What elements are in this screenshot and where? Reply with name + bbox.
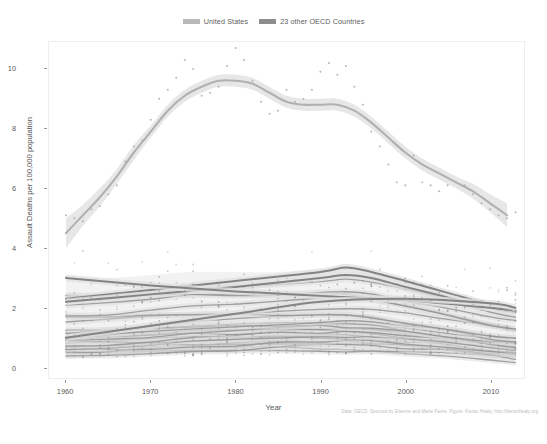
oecd-data-point [464, 316, 466, 318]
oecd-data-point [345, 288, 347, 290]
oecd-data-point [413, 296, 415, 298]
oecd-data-point [201, 343, 203, 345]
oecd-data-point [430, 344, 432, 346]
oecd-data-point [464, 346, 466, 348]
oecd-data-point [455, 307, 457, 309]
us-data-point [218, 86, 220, 88]
oecd-data-point [99, 347, 101, 349]
oecd-data-point [447, 285, 449, 287]
oecd-data-point [65, 330, 67, 332]
us-data-point [498, 214, 500, 216]
oecd-data-point [430, 330, 432, 332]
oecd-data-point [370, 250, 372, 252]
oecd-data-point [124, 284, 126, 286]
oecd-data-point [192, 270, 194, 272]
oecd-data-point [235, 303, 237, 305]
oecd-data-point [141, 317, 143, 319]
oecd-data-point [74, 334, 76, 336]
us-data-point [73, 217, 75, 219]
oecd-data-point [438, 328, 440, 330]
oecd-data-point [124, 320, 126, 322]
oecd-data-point [498, 291, 500, 293]
legend-key-oecd-icon [259, 19, 276, 24]
oecd-data-point [82, 345, 84, 347]
x-tick-label-1970: 1970 [130, 387, 170, 396]
oecd-data-point [226, 352, 228, 354]
chart-legend: United States 23 other OECD Countries [0, 17, 547, 26]
oecd-data-point [345, 340, 347, 342]
y-tick-mark-2 [44, 308, 47, 309]
oecd-data-point [481, 300, 483, 302]
oecd-data-point [370, 284, 372, 286]
oecd-data-point [150, 282, 152, 284]
y-tick-mark-0 [44, 368, 47, 369]
oecd-data-point [108, 349, 110, 351]
oecd-data-point [370, 334, 372, 336]
us-confidence-ribbon [66, 74, 507, 248]
oecd-data-point [218, 327, 220, 329]
oecd-data-point [167, 326, 169, 328]
oecd-data-point [65, 301, 67, 303]
plot-panel [48, 41, 525, 379]
oecd-data-point [226, 282, 228, 284]
oecd-data-point [379, 347, 381, 349]
oecd-data-point [286, 291, 288, 293]
us-data-point [319, 71, 321, 73]
oecd-data-point [464, 352, 466, 354]
us-data-point [345, 65, 347, 67]
oecd-data-point [277, 291, 279, 293]
oecd-data-point [506, 325, 508, 327]
oecd-data-point [379, 269, 381, 271]
oecd-data-point [311, 336, 313, 338]
oecd-data-point [218, 285, 220, 287]
oecd-data-point [277, 341, 279, 343]
oecd-data-point [294, 310, 296, 312]
oecd-data-point [472, 314, 474, 316]
oecd-data-point [218, 323, 220, 325]
oecd-data-point [404, 310, 406, 312]
oecd-data-point [141, 332, 143, 334]
oecd-data-point [99, 344, 101, 346]
oecd-data-point [472, 338, 474, 340]
us-data-point [353, 86, 355, 88]
oecd-data-point [404, 328, 406, 330]
oecd-data-point [269, 344, 271, 346]
oecd-data-point [438, 348, 440, 350]
oecd-data-point [167, 352, 169, 354]
oecd-data-point [65, 338, 67, 340]
y-tick-label-4: 4 [0, 244, 16, 253]
legend-item-united-states[interactable]: United States [183, 17, 248, 26]
oecd-data-point [354, 349, 356, 351]
oecd-data-point [192, 324, 194, 326]
oecd-data-point [337, 341, 339, 343]
x-tick-mark-2000 [406, 380, 407, 383]
oecd-data-point [481, 315, 483, 317]
oecd-data-point [387, 306, 389, 308]
oecd-data-point [345, 276, 347, 278]
us-data-point [243, 59, 245, 61]
oecd-data-point [413, 304, 415, 306]
oecd-data-point [489, 342, 491, 344]
oecd-data-point [99, 340, 101, 342]
oecd-data-point [337, 333, 339, 335]
oecd-data-point [116, 309, 118, 311]
oecd-data-point [294, 344, 296, 346]
us-data-point [421, 181, 423, 183]
oecd-data-point [158, 320, 160, 322]
oecd-data-point [91, 354, 93, 356]
oecd-data-point [243, 351, 245, 353]
oecd-data-point [243, 307, 245, 309]
legend-key-united-states-icon [183, 19, 200, 24]
legend-item-oecd[interactable]: 23 other OECD Countries [259, 17, 364, 26]
oecd-data-point [141, 319, 143, 321]
oecd-data-point [260, 308, 262, 310]
x-tick-label-2000: 2000 [386, 387, 426, 396]
oecd-data-point [226, 335, 228, 337]
us-data-point [209, 92, 211, 94]
oecd-data-point [430, 321, 432, 323]
oecd-data-point [396, 283, 398, 285]
oecd-data-point [74, 292, 76, 294]
oecd-data-point [175, 315, 177, 317]
oecd-data-point [150, 343, 152, 345]
oecd-data-point [133, 306, 135, 308]
